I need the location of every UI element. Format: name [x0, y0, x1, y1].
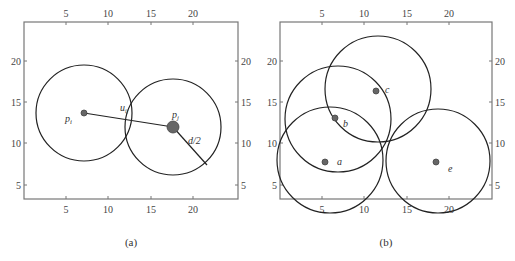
x-tick-label-top: 10: [103, 8, 113, 19]
segment-pi-pj: [84, 113, 173, 127]
point-pj-label: pj: [171, 109, 179, 122]
y-tick-label-left: 20: [267, 56, 277, 67]
radius-segment: [173, 127, 207, 165]
y-tick-label-left: 15: [267, 97, 277, 108]
y-tick-label-right: 15: [495, 97, 505, 108]
x-tick-label-top: 15: [146, 8, 156, 19]
y-tick-label-left: 10: [267, 138, 277, 149]
x-tick-label-top: 15: [402, 8, 412, 19]
panel-b: 5510101515202020201515101055abce(b): [267, 8, 505, 249]
point-e-label: e: [448, 163, 453, 174]
x-tick-label-top: 5: [320, 8, 325, 19]
x-tick-label-top: 5: [64, 8, 69, 19]
x-tick-label-bottom: 20: [444, 204, 454, 215]
point-pi-label: pi: [64, 113, 72, 126]
y-tick-label-right: 15: [241, 97, 251, 108]
panel-caption: (a): [125, 236, 138, 249]
y-tick-label-left: 5: [16, 180, 21, 191]
y-tick-label-left: 10: [11, 138, 21, 149]
point-c: [373, 88, 379, 94]
label-uij: uij: [120, 102, 129, 114]
y-tick-label-left: 20: [11, 56, 21, 67]
y-tick-label-left: 15: [11, 97, 21, 108]
diagram-canvas: 5510101515202020201515101055pipjuijd/2(a…: [0, 0, 515, 261]
point-a: [322, 159, 328, 165]
label-d-half: d/2: [188, 135, 201, 146]
point-a-label: a: [337, 156, 342, 167]
x-tick-label-bottom: 20: [188, 204, 198, 215]
x-tick-label-bottom: 5: [64, 204, 69, 215]
point-pj: [167, 121, 179, 133]
panel-a: 5510101515202020201515101055pipjuijd/2(a…: [11, 8, 251, 249]
point-b: [332, 115, 338, 121]
y-tick-label-right: 5: [495, 180, 500, 191]
point-c-label: c: [385, 84, 390, 95]
panel-caption: (b): [380, 236, 393, 249]
x-tick-label-bottom: 10: [359, 204, 369, 215]
y-tick-label-left: 5: [272, 180, 277, 191]
x-tick-label-top: 10: [359, 8, 369, 19]
circle-a: [277, 107, 383, 213]
x-tick-label-bottom: 5: [320, 204, 325, 215]
x-tick-label-top: 20: [444, 8, 454, 19]
y-tick-label-right: 20: [495, 56, 505, 67]
y-tick-label-right: 20: [241, 56, 251, 67]
x-tick-label-bottom: 15: [146, 204, 156, 215]
plot-frame: [24, 22, 238, 199]
point-b-label: b: [343, 118, 348, 129]
y-tick-label-right: 5: [241, 180, 246, 191]
point-e: [433, 159, 439, 165]
point-pi: [81, 110, 87, 116]
x-tick-label-bottom: 10: [103, 204, 113, 215]
y-tick-label-right: 10: [495, 138, 505, 149]
y-tick-label-right: 10: [241, 138, 251, 149]
x-tick-label-top: 20: [188, 8, 198, 19]
